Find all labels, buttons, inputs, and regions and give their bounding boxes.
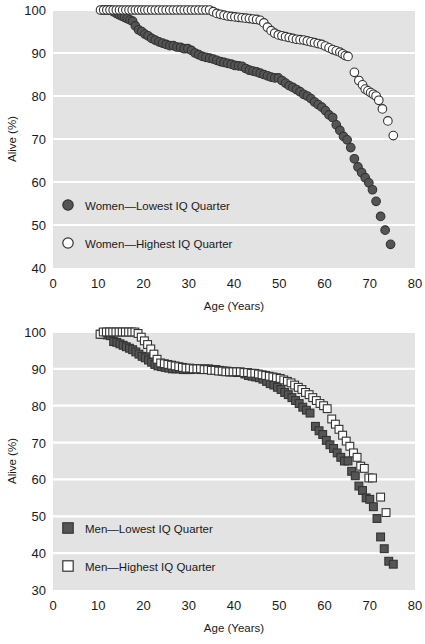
- data-point: [360, 464, 368, 472]
- survival-curves-figure: 40506070809010001020304050607080Age (Yea…: [0, 0, 425, 644]
- data-point: [366, 495, 374, 503]
- y-tick-label: 70: [32, 436, 46, 451]
- y-axis-ticks: 405060708090100: [24, 3, 46, 276]
- x-tick-label: 30: [182, 598, 196, 613]
- y-tick-label: 100: [24, 3, 46, 18]
- data-point: [306, 409, 314, 417]
- chart-panel-women: 40506070809010001020304050607080Age (Yea…: [0, 0, 425, 322]
- data-point: [380, 545, 388, 553]
- y-axis-title: Alive (%): [6, 438, 18, 484]
- x-tick-label: 80: [408, 276, 422, 291]
- x-tick-label: 10: [91, 276, 105, 291]
- y-axis-ticks: 30405060708090100: [24, 325, 46, 598]
- data-point: [323, 405, 331, 413]
- x-axis-title: Age (Years): [204, 622, 264, 634]
- data-point: [368, 185, 377, 194]
- y-axis-title: Alive (%): [6, 116, 18, 162]
- data-point: [389, 131, 398, 140]
- x-tick-label: 40: [227, 276, 241, 291]
- y-tick-label: 90: [32, 362, 46, 377]
- data-point: [369, 474, 377, 482]
- data-point: [376, 212, 385, 221]
- x-tick-label: 0: [49, 276, 56, 291]
- y-tick-label: 30: [32, 583, 46, 598]
- data-point: [344, 457, 352, 465]
- y-tick-label: 50: [32, 218, 46, 233]
- data-point: [350, 68, 359, 77]
- data-point: [344, 52, 353, 61]
- y-tick-label: 40: [32, 546, 46, 561]
- x-tick-label: 50: [272, 598, 286, 613]
- legend-label: Women—Highest IQ Quarter: [85, 238, 233, 250]
- y-tick-label: 100: [24, 325, 46, 340]
- y-tick-label: 70: [32, 132, 46, 147]
- x-tick-label: 10: [91, 598, 105, 613]
- data-point: [375, 96, 384, 105]
- data-point: [386, 240, 395, 249]
- legend-marker: [63, 238, 73, 248]
- data-point: [369, 503, 377, 511]
- x-tick-label: 30: [182, 276, 196, 291]
- data-point: [372, 197, 381, 206]
- chart-men: 3040506070809010001020304050607080Age (Y…: [0, 322, 425, 644]
- x-tick-label: 50: [272, 276, 286, 291]
- data-point: [384, 117, 393, 126]
- chart-panel-men: 3040506070809010001020304050607080Age (Y…: [0, 322, 425, 644]
- y-tick-label: 60: [32, 472, 46, 487]
- y-tick-label: 80: [32, 399, 46, 414]
- x-tick-label: 0: [49, 598, 56, 613]
- x-tick-label: 20: [136, 276, 150, 291]
- legend-label: Men—Lowest IQ Quarter: [85, 523, 213, 535]
- x-tick-label: 70: [363, 598, 377, 613]
- legend-marker: [63, 523, 73, 533]
- legend-label: Men—Highest IQ Quarter: [85, 561, 216, 573]
- x-tick-label: 40: [227, 598, 241, 613]
- data-point: [353, 453, 361, 461]
- chart-women: 40506070809010001020304050607080Age (Yea…: [0, 0, 425, 322]
- data-point: [346, 143, 355, 152]
- data-point: [381, 226, 390, 235]
- x-axis-title: Age (Years): [204, 300, 264, 312]
- x-tick-label: 60: [317, 598, 331, 613]
- data-point: [389, 560, 397, 568]
- y-tick-label: 90: [32, 46, 46, 61]
- data-point: [359, 487, 367, 495]
- data-point: [378, 105, 387, 114]
- x-tick-label: 20: [136, 598, 150, 613]
- legend-marker: [63, 200, 73, 210]
- data-point: [382, 509, 390, 517]
- y-tick-label: 80: [32, 89, 46, 104]
- legend-label: Women—Lowest IQ Quarter: [85, 200, 230, 212]
- data-point: [350, 154, 359, 163]
- legend-marker: [63, 561, 73, 571]
- x-axis-ticks: 01020304050607080: [49, 598, 422, 613]
- x-axis-ticks: 01020304050607080: [49, 276, 422, 291]
- x-tick-label: 60: [317, 276, 331, 291]
- x-tick-label: 70: [363, 276, 377, 291]
- data-point: [377, 493, 385, 501]
- y-tick-label: 50: [32, 509, 46, 524]
- y-tick-label: 40: [32, 261, 46, 276]
- x-tick-label: 80: [408, 598, 422, 613]
- data-point: [377, 533, 385, 541]
- y-tick-label: 60: [32, 175, 46, 190]
- data-point: [373, 515, 381, 523]
- data-point: [351, 472, 359, 480]
